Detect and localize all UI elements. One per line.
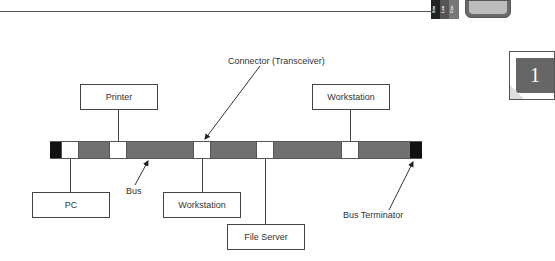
bus-arrow: [135, 161, 148, 185]
terminator-arrow: [389, 162, 413, 210]
connector-arrow: [205, 66, 260, 139]
arrows-layer: [0, 0, 555, 261]
